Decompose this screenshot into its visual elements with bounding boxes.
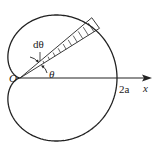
intercept-label: 2a xyxy=(119,83,130,95)
x-axis-label: x xyxy=(142,82,148,94)
theta-label: θ xyxy=(49,68,55,80)
origin-label: O xyxy=(9,72,17,84)
dtheta-label: dθ xyxy=(33,38,44,50)
shaded-sector xyxy=(20,18,99,78)
cardioid-diagram: O dθ θ 2a x xyxy=(0,0,163,159)
